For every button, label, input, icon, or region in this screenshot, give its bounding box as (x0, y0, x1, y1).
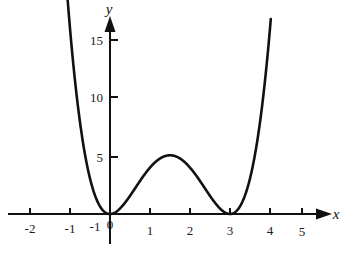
origin-label: 0 (107, 217, 114, 232)
graph-canvas: -2 -1 -1 0 1 2 3 4 5 5 10 15 y x (0, 0, 341, 259)
x-axis-arrowhead (316, 209, 332, 220)
x-tick-label-2: 2 (187, 223, 194, 238)
x-tick-label-3: 3 (227, 223, 234, 238)
y-tick-label-10: 10 (90, 90, 103, 105)
y-axis-arrowhead (105, 16, 116, 32)
y-tick-label-15: 15 (90, 33, 103, 48)
x-tick-label-1: 1 (147, 223, 154, 238)
x-tick-label--1: -1 (65, 221, 76, 236)
y-axis-label: y (104, 1, 113, 17)
x-tick-label--2: -2 (25, 221, 36, 236)
x-axis-label: x (332, 206, 340, 222)
y-tick-label-5: 5 (97, 150, 104, 165)
x-stray-label: -1 (90, 219, 101, 234)
x-tick-label-4: 4 (267, 223, 274, 238)
figure-container: -2 -1 -1 0 1 2 3 4 5 5 10 15 y x (0, 0, 341, 259)
x-tick-label-5: 5 (299, 224, 306, 239)
